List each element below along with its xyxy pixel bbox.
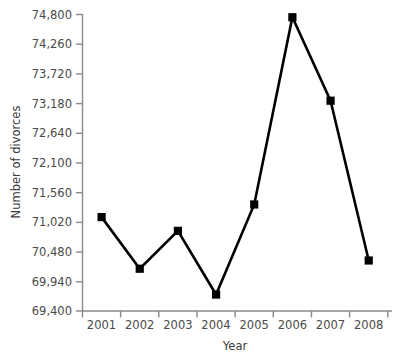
chart-canvas: 74,800 74,260 73,720 73,180 72,640 72,10… (0, 0, 402, 358)
y-tick-label: 74,260 (32, 37, 72, 51)
data-point-marker (250, 200, 258, 208)
y-axis-title: Number of divorces (9, 106, 23, 219)
y-tick-label: 74,800 (32, 8, 72, 22)
data-point-marker (212, 290, 220, 298)
data-point-marker (136, 265, 144, 273)
y-tick-label: 72,100 (32, 156, 72, 170)
data-point-marker (288, 13, 296, 21)
data-point-marker (365, 256, 373, 264)
y-tick-label: 69,400 (32, 304, 72, 318)
y-tick-label: 71,020 (32, 215, 72, 229)
x-tick-label: 2002 (125, 318, 154, 332)
x-axis-title: Year (222, 339, 248, 353)
x-tick-label: 2004 (201, 318, 230, 332)
y-tick-label: 70,480 (32, 245, 72, 259)
x-tick-label: 2006 (278, 318, 307, 332)
x-tick-label: 2005 (240, 318, 269, 332)
y-tick-label: 73,180 (32, 97, 72, 111)
data-point-marker (326, 97, 334, 105)
y-tick-label: 73,720 (32, 67, 72, 81)
y-tick-label: 72,640 (32, 126, 72, 140)
data-point-marker (174, 227, 182, 235)
x-tick-label: 2007 (316, 318, 345, 332)
x-tick-label: 2008 (354, 318, 383, 332)
line-chart: 74,800 74,260 73,720 73,180 72,640 72,10… (0, 0, 402, 358)
data-point-marker (97, 213, 105, 221)
x-tick-label: 2001 (87, 318, 116, 332)
x-tick-label: 2003 (163, 318, 192, 332)
y-tick-label: 69,940 (32, 275, 72, 289)
y-tick-label: 71,560 (32, 186, 72, 200)
